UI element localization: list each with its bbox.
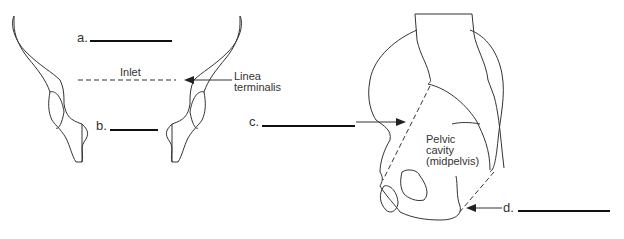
- label-a: a.: [77, 32, 88, 44]
- answer-blank-c[interactable]: [262, 125, 355, 127]
- label-b: b.: [96, 120, 107, 132]
- obturator-foramen: [401, 170, 427, 201]
- label-linea-terminalis-2: terminalis: [234, 81, 281, 93]
- pelvis-diagram: [0, 0, 624, 239]
- answer-blank-b[interactable]: [110, 129, 158, 131]
- hipbone-outline: [369, 30, 461, 220]
- label-inlet: Inlet: [120, 66, 141, 78]
- answer-blank-d[interactable]: [518, 210, 610, 212]
- label-d: d.: [503, 202, 514, 214]
- right-ilium-outline: [166, 16, 241, 162]
- answer-blank-a[interactable]: [90, 40, 172, 42]
- label-c: c.: [249, 116, 259, 128]
- label-pelvic-cavity-3: (midpelvis): [426, 155, 479, 167]
